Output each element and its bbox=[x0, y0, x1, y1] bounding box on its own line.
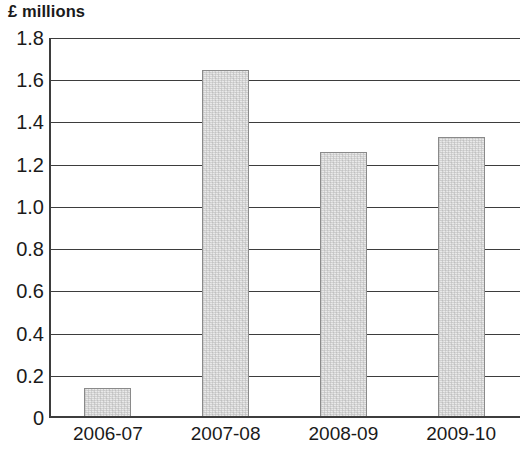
bar-chart: £ millions 1.81.61.41.21.00.80.60.40.20 … bbox=[0, 0, 520, 450]
gridline bbox=[49, 38, 520, 39]
y-axis-tick-label: 1.8 bbox=[0, 28, 44, 48]
x-axis-tick-label: 2009-10 bbox=[402, 421, 520, 447]
y-axis-tick-label: 1.2 bbox=[0, 155, 44, 175]
y-axis-tick-label: 0 bbox=[0, 408, 44, 428]
gridline bbox=[49, 80, 520, 81]
x-axis-tick-label: 2008-09 bbox=[285, 421, 403, 447]
x-axis-tick-label: 2006-07 bbox=[49, 421, 167, 447]
plot-area bbox=[49, 38, 520, 418]
y-axis-tick-label: 0.4 bbox=[0, 324, 44, 344]
x-axis-tick-labels: 2006-072007-082008-092009-10 bbox=[49, 421, 520, 449]
y-axis-tick-label: 0.8 bbox=[0, 239, 44, 259]
y-axis-tick-labels: 1.81.61.41.21.00.80.60.40.20 bbox=[0, 38, 44, 418]
bar bbox=[438, 137, 485, 418]
gridline bbox=[49, 122, 520, 123]
y-axis-tick-label: 1.4 bbox=[0, 112, 44, 132]
chart-title: £ millions bbox=[8, 1, 85, 21]
x-axis-tick-label: 2007-08 bbox=[167, 421, 285, 447]
bar bbox=[84, 388, 131, 418]
bar bbox=[202, 70, 249, 418]
y-axis-tick-label: 1.6 bbox=[0, 70, 44, 90]
y-axis-line bbox=[49, 38, 51, 418]
y-axis-tick-label: 0.6 bbox=[0, 281, 44, 301]
y-axis-tick-label: 0.2 bbox=[0, 366, 44, 386]
bar bbox=[320, 152, 367, 418]
x-axis-baseline bbox=[49, 416, 520, 418]
y-axis-tick-label: 1.0 bbox=[0, 197, 44, 217]
